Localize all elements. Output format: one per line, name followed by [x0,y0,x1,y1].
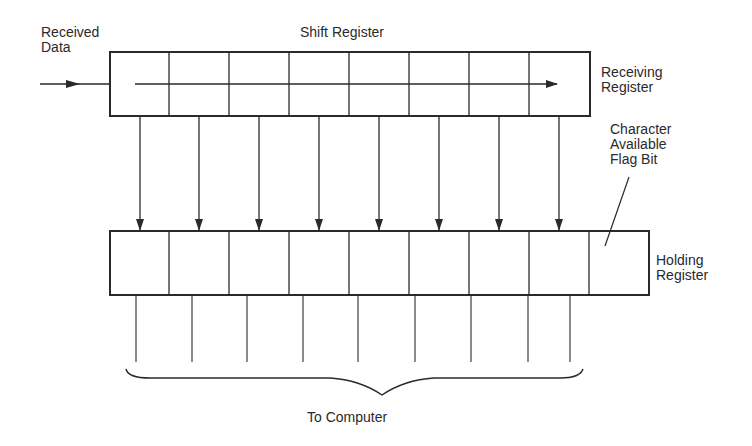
shift-register-label: Shift Register [300,25,384,40]
receiving-register-label: Receiving Register [601,65,662,95]
receiving-register [110,52,590,116]
brace-icon [126,369,583,395]
input-arrowhead-icon [66,80,80,88]
output-lines [136,295,570,362]
holding-register-label: Holding Register [656,253,708,283]
to-computer-label: To Computer [307,410,387,425]
holding-register [110,231,649,295]
flag-bit-pointer [605,177,629,246]
received-data-label: Received Data [41,25,99,55]
transfer-arrows [140,116,559,230]
flag-bit-label: Character Available Flag Bit [610,122,671,167]
